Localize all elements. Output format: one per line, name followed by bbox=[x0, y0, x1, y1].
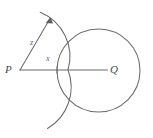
geometry-figure: P Q x z bbox=[0, 0, 153, 138]
point-label-p: P bbox=[5, 64, 12, 75]
point-label-q: Q bbox=[110, 64, 118, 75]
ray-label-z: z bbox=[30, 38, 33, 47]
ray-pz bbox=[20, 21, 49, 70]
geometry-canvas bbox=[0, 0, 153, 138]
segment-label-x: x bbox=[46, 54, 50, 63]
